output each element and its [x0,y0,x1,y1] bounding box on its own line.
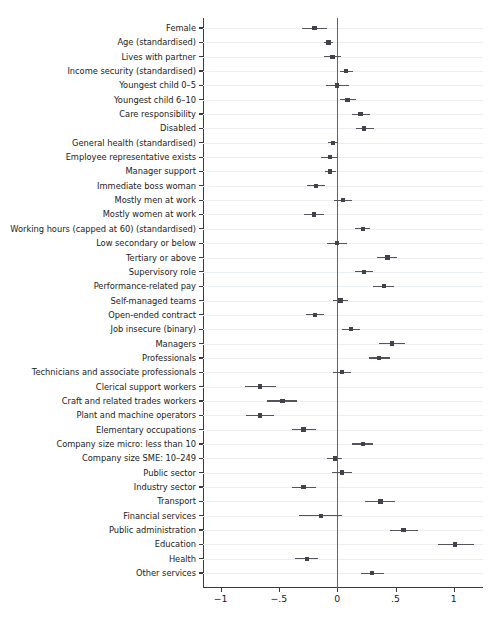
gridline [203,57,483,58]
x-axis-tick-label: 1 [451,594,457,603]
y-axis-label: Company size micro: less than 10 [56,440,196,448]
plot-area: FemaleAge (standardised)Lives with partn… [203,18,483,588]
y-axis-label: Financial services [123,512,196,520]
point-estimate-marker [385,255,389,259]
y-axis-tick [199,271,203,272]
y-axis-label: Self-managed teams [111,296,196,304]
gridline [203,559,483,560]
point-estimate-marker [358,112,362,116]
gridline [203,214,483,215]
gridline [203,143,483,144]
y-axis-label: Industry sector [134,483,196,491]
y-axis-tick [199,372,203,373]
point-estimate-marker [401,528,405,532]
gridline [203,516,483,517]
x-axis-tick-label: −.5 [270,594,287,603]
y-axis-tick [199,415,203,416]
y-axis-tick [199,343,203,344]
gridline [203,42,483,43]
point-estimate-marker [258,384,262,388]
gridline [203,186,483,187]
zero-reference-line [337,18,338,588]
y-axis-tick [199,243,203,244]
y-axis-tick [199,42,203,43]
y-axis-label: Female [166,24,196,32]
y-axis-tick [199,558,203,559]
y-axis-label: Public administration [109,526,196,534]
y-axis-tick [199,486,203,487]
gridline [203,458,483,459]
y-axis-tick [199,458,203,459]
point-estimate-marker [301,485,305,489]
coefficient-plot-figure: FemaleAge (standardised)Lives with partn… [0,0,489,626]
gridline [203,171,483,172]
point-estimate-marker [370,571,374,575]
y-axis-label: Education [155,540,196,548]
y-axis-label: Immediate boss woman [97,182,196,190]
y-axis-tick [199,429,203,430]
point-estimate-marker [312,212,316,216]
point-estimate-marker [382,284,386,288]
y-axis-label: Supervisory role [129,268,196,276]
point-estimate-marker [349,327,353,331]
y-axis-label: Income security (standardised) [67,67,196,75]
y-axis-label: Youngest child 0–5 [119,81,196,89]
y-axis-label: Performance-related pay [94,282,196,290]
y-axis-label: Technicians and associate professionals [32,368,196,376]
y-axis-label: Clerical support workers [96,382,196,390]
gridline [203,444,483,445]
point-estimate-marker [335,83,339,87]
y-axis-label: Other services [136,569,196,577]
y-axis-tick [199,27,203,28]
x-axis-tick [396,588,397,592]
y-axis-label: Health [169,555,196,563]
gridline [203,430,483,431]
y-axis-label: Working hours (capped at 60) (standardis… [10,225,196,233]
point-estimate-marker [378,499,382,503]
y-axis-label: Lives with partner [121,53,196,61]
y-axis-tick [199,171,203,172]
y-axis-label: Plant and machine operators [76,411,196,419]
y-axis-label: General health (standardised) [72,139,196,147]
y-axis-label: Care responsibility [119,110,196,118]
y-axis-label: Mostly women at work [103,210,196,218]
y-axis-label: Manager support [125,167,196,175]
y-axis-tick [199,472,203,473]
y-axis-tick [199,200,203,201]
gridline [203,315,483,316]
y-axis-label: Craft and related trades workers [62,397,196,405]
point-estimate-marker [362,270,366,274]
gridline [203,229,483,230]
point-estimate-marker [377,356,381,360]
x-axis-tick-label: .5 [391,594,400,603]
point-estimate-marker [340,370,344,374]
y-axis-tick [199,113,203,114]
point-estimate-marker [328,155,332,159]
y-axis-label: Managers [155,339,196,347]
point-estimate-marker [338,298,342,302]
y-axis-tick [199,286,203,287]
point-estimate-marker [314,184,318,188]
y-axis-label: Open-ended contract [108,311,196,319]
point-estimate-marker [345,98,349,102]
y-axis-label: Transport [157,497,196,505]
y-axis-tick [199,572,203,573]
y-axis-tick [199,515,203,516]
point-estimate-marker [280,399,284,403]
y-axis-tick [199,300,203,301]
y-axis-tick [199,501,203,502]
y-axis-label: Elementary occupations [96,425,196,433]
x-axis-tick-label: 0 [334,594,340,603]
point-estimate-marker [326,40,330,44]
y-axis-label: Public sector [143,469,196,477]
point-estimate-marker [258,413,262,417]
point-estimate-marker [333,456,337,460]
point-estimate-marker [453,542,457,546]
point-estimate-marker [361,227,365,231]
point-estimate-marker [362,126,366,130]
y-axis-label: Professionals [142,354,196,362]
x-axis-tick [221,588,222,592]
gridline [203,401,483,402]
point-estimate-marker [328,169,332,173]
gridline [203,501,483,502]
